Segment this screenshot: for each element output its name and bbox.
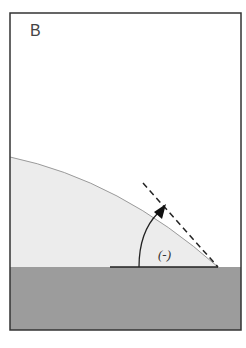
contact-angle-diagram bbox=[0, 0, 246, 348]
panel-label: B bbox=[30, 22, 41, 40]
angle-theta-label: (-) bbox=[158, 247, 171, 263]
solid-substrate bbox=[10, 267, 241, 330]
